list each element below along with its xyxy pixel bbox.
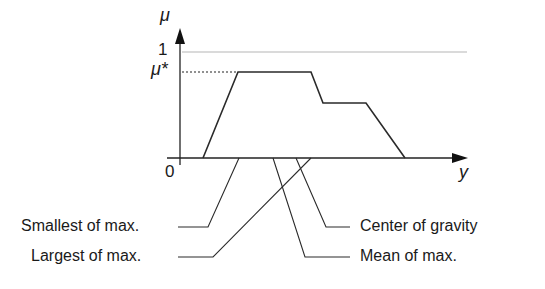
label-largest-of-max: Largest of max.	[31, 247, 141, 265]
x-axis-label: y	[459, 162, 468, 183]
label-center-of-gravity: Center of gravity	[360, 217, 477, 235]
membership-function	[203, 72, 405, 158]
y-axis-arrow-icon	[175, 28, 185, 44]
largest-of-max-leader	[178, 158, 311, 257]
y-axis-label: μ	[160, 5, 170, 26]
origin-label: 0	[165, 162, 174, 182]
smallest-of-max-leader	[178, 158, 239, 227]
mean-of-max-leader	[273, 158, 350, 257]
label-smallest-of-max: Smallest of max.	[21, 217, 139, 235]
tick-mu-star: μ*	[151, 59, 168, 80]
diagram-canvas	[0, 0, 545, 289]
center-of-gravity-leader	[296, 158, 350, 227]
tick-one: 1	[158, 40, 167, 60]
label-mean-of-max: Mean of max.	[360, 247, 457, 265]
